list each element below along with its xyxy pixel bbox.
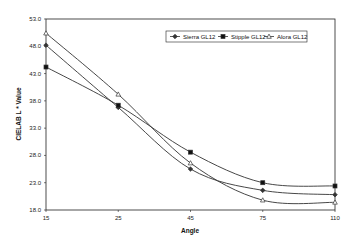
- y-tick-label: 53.0: [29, 16, 41, 22]
- legend-label: Sierra GL12: [183, 34, 216, 40]
- legend-label: Stipple GL12: [231, 34, 266, 40]
- square-marker-icon: [221, 35, 225, 39]
- diamond-marker-icon: [188, 167, 193, 172]
- square-marker-icon: [116, 103, 120, 107]
- x-tick-label: 110: [330, 215, 340, 221]
- y-tick-label: 23.0: [29, 180, 41, 186]
- x-tick-label: 25: [115, 215, 122, 221]
- square-marker-icon: [44, 65, 48, 69]
- y-tick-label: 18.0: [29, 207, 41, 213]
- series-alora-gl12: [44, 31, 338, 204]
- legend: Sierra GL12Stipple GL12Alora GL12: [166, 31, 308, 42]
- legend-label: Alora GL12: [277, 34, 308, 40]
- series-line: [46, 33, 335, 203]
- y-tick-label: 28.0: [29, 152, 41, 158]
- series-sierra-gl12: [44, 43, 338, 197]
- y-tick-label: 38.0: [29, 98, 41, 104]
- triangle-marker-icon: [44, 31, 49, 35]
- y-tick-label: 43.0: [29, 71, 41, 77]
- square-marker-icon: [189, 150, 193, 154]
- legend-item: Stipple GL12: [218, 34, 266, 40]
- square-marker-icon: [261, 181, 265, 185]
- y-axis-ticks: 53.048.043.038.033.028.023.018.0: [29, 16, 46, 213]
- plot-frame: [46, 19, 335, 210]
- y-axis-title: CIELAB L * Value: [15, 87, 22, 140]
- series-layer: [44, 31, 338, 204]
- x-tick-label: 15: [43, 215, 50, 221]
- diamond-marker-icon: [333, 192, 338, 197]
- y-tick-label: 48.0: [29, 43, 41, 49]
- x-axis-title: Angle: [181, 227, 199, 235]
- x-tick-label: 45: [187, 215, 194, 221]
- line-chart: 53.048.043.038.033.028.023.018.0 1525457…: [0, 0, 352, 247]
- y-tick-label: 33.0: [29, 125, 41, 131]
- x-tick-label: 75: [259, 215, 266, 221]
- diamond-marker-icon: [260, 188, 265, 193]
- square-marker-icon: [333, 184, 337, 188]
- plot-area-border: [46, 19, 335, 210]
- series-line: [46, 45, 335, 195]
- x-axis-ticks: 15254575110: [43, 210, 341, 221]
